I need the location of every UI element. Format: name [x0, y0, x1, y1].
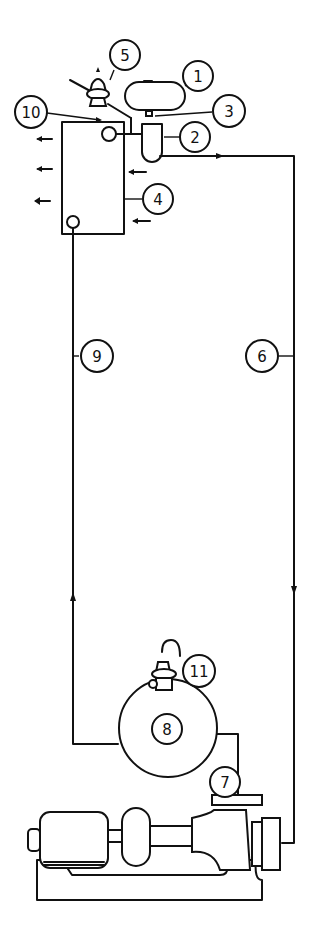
callout-2: 2 [180, 122, 210, 152]
system-diagram: 1 2 3 4 5 6 7 8 9 10 11 [0, 0, 324, 931]
svg-text:3: 3 [224, 103, 234, 121]
svg-text:1: 1 [193, 68, 203, 86]
callout-1: 1 [183, 61, 213, 91]
callout-5: 5 [110, 40, 140, 70]
svg-text:9: 9 [92, 348, 102, 366]
relief-valve-top [70, 67, 131, 118]
svg-text:2: 2 [190, 129, 200, 147]
svg-text:6: 6 [257, 348, 267, 366]
svg-text:7: 7 [220, 774, 230, 792]
callout-11: 11 [183, 655, 215, 687]
svg-text:5: 5 [120, 47, 130, 65]
svg-text:8: 8 [162, 721, 172, 739]
callout-7: 7 [210, 767, 240, 797]
expansion-tank [125, 81, 185, 116]
callout-9: 9 [81, 340, 113, 372]
leader-3 [155, 112, 212, 116]
leader-5 [110, 70, 114, 80]
svg-text:4: 4 [153, 191, 163, 209]
callout-6: 6 [246, 340, 278, 372]
callout-4: 4 [143, 184, 173, 214]
air-separator [116, 118, 162, 162]
svg-text:11: 11 [189, 663, 208, 681]
callout-10: 10 [15, 96, 47, 128]
pump-motor-assembly [28, 795, 280, 900]
callout-8: 8 [152, 714, 182, 744]
return-pipe [70, 228, 118, 744]
svg-text:10: 10 [21, 104, 40, 122]
heat-arrows-left [34, 136, 52, 205]
heater-tank [62, 122, 124, 234]
callout-3: 3 [213, 95, 245, 127]
leader-10 [47, 113, 100, 120]
